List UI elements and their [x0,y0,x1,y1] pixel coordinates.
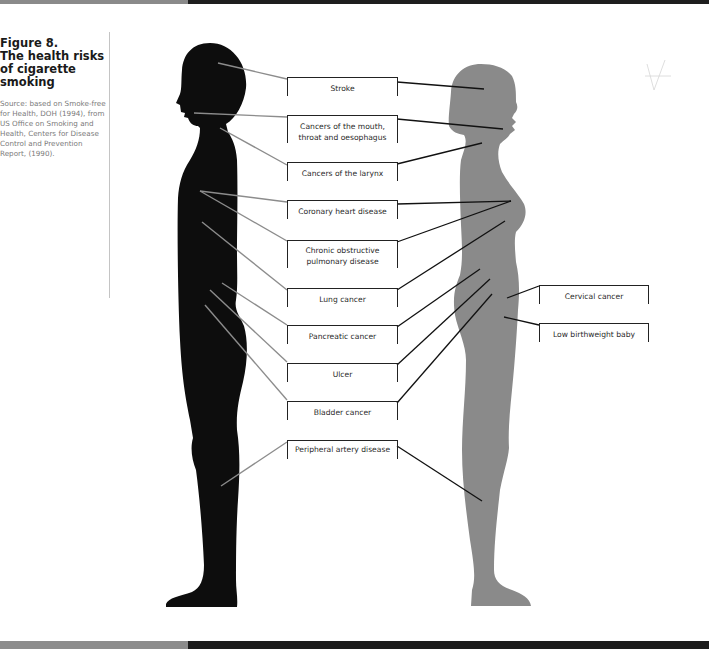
female-silhouette [449,64,531,606]
label-pancreatic-cancer: Pancreatic cancer [287,325,398,344]
label-ulcer-text: Ulcer [333,370,353,379]
label-larynx-text: Cancers of the larynx [302,169,383,178]
label-peripheral-text: Peripheral artery disease [295,445,390,454]
label-stroke: Stroke [287,77,398,96]
label-coronary-text: Coronary heart disease [298,207,387,216]
bottom-rule-grey [0,641,188,649]
label-cervical-text: Cervical cancer [565,292,624,301]
label-coronary-heart-disease: Coronary heart disease [287,200,398,219]
label-stroke-text: Stroke [330,84,354,93]
label-lung-text: Lung cancer [319,295,366,304]
label-birthweight-text: Low birthweight baby [553,330,635,339]
label-ulcer: Ulcer [287,363,398,382]
label-lung-cancer: Lung cancer [287,288,398,307]
label-peripheral-artery-disease: Peripheral artery disease [287,440,398,459]
label-low-birthweight-baby: Low birthweight baby [539,323,649,342]
label-bladder-text: Bladder cancer [314,408,371,417]
label-copd: Chronic obstructive pulmonary disease [287,240,398,268]
label-bladder-cancer: Bladder cancer [287,401,398,420]
label-mouth-throat-oesophagus: Cancers of the mouth, throat and oesopha… [287,115,398,143]
label-cervical-cancer: Cervical cancer [539,285,649,304]
bottom-rule-dark [188,641,709,649]
male-silhouette [166,43,247,607]
label-copd-text: Chronic obstructive pulmonary disease [288,246,397,267]
label-mouth-text: Cancers of the mouth, throat and oesopha… [288,122,397,143]
label-pancreatic-text: Pancreatic cancer [309,332,376,341]
pencil-tick-mark [645,58,675,98]
label-larynx: Cancers of the larynx [287,162,398,181]
